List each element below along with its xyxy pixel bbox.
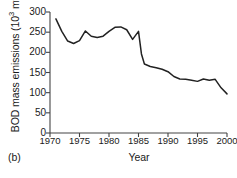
axes [50, 12, 227, 133]
y-axis-tick-label: 100 [20, 88, 46, 98]
chart-figure: BOD mass emissions (103 mt) 050100150200… [0, 0, 237, 178]
y-axis-tick-label: 250 [20, 27, 46, 37]
x-axis-title: Year [50, 152, 228, 163]
y-axis-tick-label: 150 [20, 68, 46, 78]
x-axis-tick-label: 2000 [210, 136, 237, 146]
y-axis-title-exponent: 3 [7, 12, 16, 16]
panel-label: (b) [8, 152, 21, 163]
y-axis-ticks [46, 12, 50, 133]
y-axis-tick-label: 300 [20, 7, 46, 17]
data-series-line [56, 19, 227, 94]
y-axis-tick-label: 200 [20, 47, 46, 57]
x-axis-tick-labels: 1970197519801985199019952000 [0, 136, 237, 152]
y-axis-tick-label: 50 [20, 108, 46, 118]
